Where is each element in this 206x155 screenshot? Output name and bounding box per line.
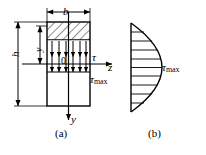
dimension-y — [36, 26, 47, 64]
panel-b-group — [131, 23, 162, 112]
label-origin-0: 0 — [61, 56, 66, 66]
label-z-axis: z — [108, 62, 112, 73]
stress-ordinate-lines — [131, 32, 162, 103]
label-tau-max-panel-b: τmax — [162, 62, 180, 74]
tau-max-subscript-b: max — [166, 65, 180, 74]
label-width-b: b — [63, 6, 69, 17]
tau-max-subscript-a: max — [94, 77, 108, 86]
label-tau-max-panel-a: τmax — [90, 74, 108, 86]
label-distance-y: y — [34, 48, 44, 52]
label-shear-stress-tau: τ — [92, 52, 96, 63]
caption-panel-b: (b) — [148, 128, 161, 139]
label-y-axis: y — [71, 114, 76, 125]
caption-panel-a: (a) — [55, 128, 67, 139]
label-height-h: h — [10, 52, 21, 58]
shear-stress-figure: b h y 0 τ z τmax y τmax (a) (b) — [0, 0, 206, 155]
